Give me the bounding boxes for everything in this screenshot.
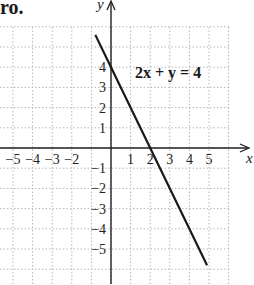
y-tick-label: 3 <box>99 80 106 95</box>
y-tick-label: −2 <box>91 181 106 196</box>
y-tick-label: 4 <box>99 60 106 75</box>
y-tick-label: −3 <box>91 202 106 217</box>
equation-label: 2x + y = 4 <box>135 64 201 82</box>
y-tick-label: −5 <box>91 242 106 257</box>
x-tick-label: −4 <box>25 152 40 167</box>
y-tick-label: 2 <box>99 101 106 116</box>
y-tick-label: 1 <box>99 121 106 136</box>
y-tick-label: −4 <box>91 222 106 237</box>
x-tick-label: 4 <box>186 152 193 167</box>
y-tick-label: −1 <box>91 161 106 176</box>
x-tick-label: 5 <box>206 152 213 167</box>
x-tick-label: −3 <box>45 152 60 167</box>
x-tick-label: −5 <box>6 152 21 167</box>
y-axis-label: y <box>95 0 104 12</box>
x-tick-label: 3 <box>166 152 173 167</box>
x-axis-label: x <box>245 150 253 166</box>
line-graph: xy−5−4−3−2123454321−1−2−3−4−52x + y = 4 <box>0 0 254 285</box>
x-tick-label: −2 <box>64 152 79 167</box>
x-tick-label: 1 <box>127 152 134 167</box>
